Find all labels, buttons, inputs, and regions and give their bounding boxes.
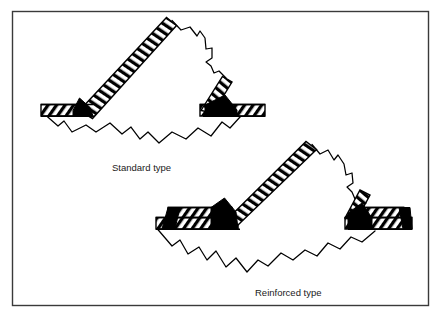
technical-diagram: Standard type	[0, 0, 442, 322]
caption-standard-type: Standard type	[112, 162, 171, 173]
caption-reinforced-type: Reinforced type	[255, 287, 322, 298]
figure-container: Standard type	[0, 0, 442, 322]
figure-border	[13, 12, 429, 306]
